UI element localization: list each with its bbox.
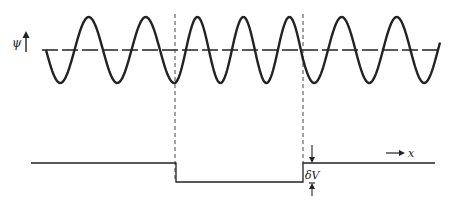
delta-v-label: δV <box>305 169 321 182</box>
x-axis-label: x <box>408 147 415 160</box>
psi-axis-label: ψ <box>12 36 22 50</box>
psi-axis-arrow-icon <box>23 31 30 52</box>
potential-well-line <box>31 163 435 182</box>
delta-v-top-arrow-icon <box>309 145 315 163</box>
wavefunction-potential-diagram: ψ x δV <box>0 0 451 206</box>
delta-v-bottom-arrow-icon <box>309 183 315 196</box>
x-axis-arrow-icon <box>386 150 405 156</box>
